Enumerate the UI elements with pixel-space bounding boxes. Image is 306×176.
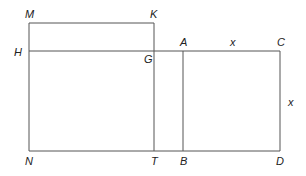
label-b: B — [180, 155, 187, 167]
label-x: x — [287, 96, 294, 108]
label-c: C — [277, 36, 285, 48]
label-g: G — [144, 53, 153, 65]
geometry-diagram: MKHGAxCxNTBD — [0, 0, 306, 176]
label-h: H — [14, 46, 22, 58]
label-k: K — [150, 8, 158, 20]
label-d: D — [276, 155, 284, 167]
label-m: M — [25, 8, 35, 20]
label-a: A — [179, 36, 187, 48]
label-t: T — [151, 155, 159, 167]
lines — [29, 23, 280, 151]
label-x: x — [229, 36, 236, 48]
label-n: N — [25, 155, 33, 167]
